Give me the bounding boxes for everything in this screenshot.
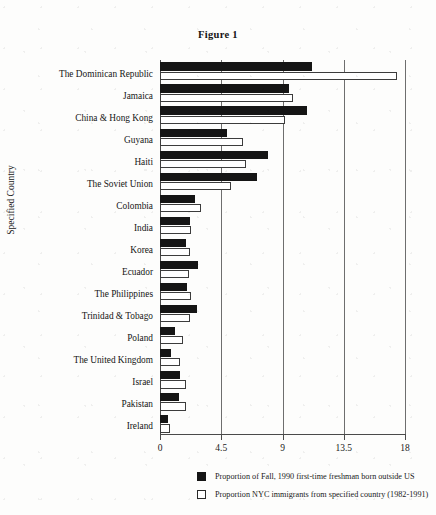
y-axis-category-label: Israel — [10, 377, 160, 387]
bar-freshman-proportion — [160, 393, 179, 401]
bar-freshman-proportion — [160, 217, 190, 225]
y-axis-category-label: The Dominican Republic — [10, 69, 160, 79]
bar-freshman-proportion — [160, 371, 180, 379]
bar-nyc-immigrant-proportion — [160, 72, 397, 80]
bar-nyc-immigrant-proportion — [160, 160, 246, 168]
x-axis-tick — [160, 435, 161, 440]
x-axis-tick-label: 4.5 — [215, 443, 227, 453]
bar-freshman-proportion — [160, 415, 168, 423]
bar-nyc-immigrant-proportion — [160, 94, 293, 102]
bar-nyc-immigrant-proportion — [160, 292, 191, 300]
bars-plot-area — [160, 60, 405, 435]
bar-freshman-proportion — [160, 129, 227, 137]
y-axis-category-label: The Philippines — [10, 289, 160, 299]
figure-title: Figure 1 — [0, 29, 436, 40]
bar-freshman-proportion — [160, 195, 195, 203]
y-axis-category-label: Pakistan — [10, 399, 160, 409]
y-axis-category-label: Korea — [10, 245, 160, 255]
y-axis-category-label: Haiti — [10, 157, 160, 167]
plot-wrapper: The Dominican RepublicJamaicaChina & Hon… — [0, 55, 436, 440]
y-axis-category-label: India — [10, 223, 160, 233]
legend-item-label: Proportion of Fall, 1990 first-time fres… — [215, 472, 414, 481]
y-axis-category-label: Trinidad & Tobago — [10, 311, 160, 321]
y-axis-category-label: Ecuador — [10, 267, 160, 277]
y-axis-category-label: Ireland — [10, 421, 160, 431]
y-axis-category-label: The United Kingdom — [10, 355, 160, 365]
gridline — [405, 60, 406, 434]
bar-nyc-immigrant-proportion — [160, 204, 201, 212]
x-axis-tick-label: 13.5 — [335, 443, 352, 453]
open-square-swatch-icon — [197, 490, 206, 499]
bar-freshman-proportion — [160, 305, 197, 313]
bar-freshman-proportion — [160, 151, 268, 159]
x-axis-tick — [344, 435, 345, 440]
x-axis-tick-label: 9 — [280, 443, 285, 453]
y-axis-category-label: Jamaica — [10, 91, 160, 101]
y-axis-category-label: Poland — [10, 333, 160, 343]
bar-freshman-proportion — [160, 84, 289, 92]
bar-nyc-immigrant-proportion — [160, 380, 186, 388]
bar-nyc-immigrant-proportion — [160, 314, 190, 322]
bar-nyc-immigrant-proportion — [160, 402, 186, 410]
bar-freshman-proportion — [160, 62, 312, 70]
bar-freshman-proportion — [160, 173, 257, 181]
bar-nyc-immigrant-proportion — [160, 248, 190, 256]
bar-freshman-proportion — [160, 327, 175, 335]
bar-nyc-immigrant-proportion — [160, 226, 191, 234]
bar-freshman-proportion — [160, 349, 171, 357]
bar-freshman-proportion — [160, 261, 198, 269]
y-axis-category-label: China & Hong Kong — [10, 113, 160, 123]
y-axis-category-label: Colombia — [10, 201, 160, 211]
x-axis-tick — [283, 435, 284, 440]
x-axis-tick-label: 0 — [158, 443, 163, 453]
bar-nyc-immigrant-proportion — [160, 358, 180, 366]
bar-nyc-immigrant-proportion — [160, 424, 170, 432]
legend-item-label: Proportion NYC immigrants from specified… — [215, 490, 428, 499]
legend-item: Proportion of Fall, 1990 first-time fres… — [197, 472, 436, 481]
x-axis-tick-label: 18 — [400, 443, 410, 453]
bar-freshman-proportion — [160, 106, 307, 114]
bar-nyc-immigrant-proportion — [160, 270, 189, 278]
x-axis-tick — [405, 435, 406, 440]
legend-item: Proportion NYC immigrants from specified… — [197, 490, 436, 499]
y-axis-category-label: The Soviet Union — [10, 179, 160, 189]
bar-freshman-proportion — [160, 239, 186, 247]
bar-nyc-immigrant-proportion — [160, 336, 183, 344]
bar-nyc-immigrant-proportion — [160, 116, 285, 124]
x-axis-tick — [221, 435, 222, 440]
bar-freshman-proportion — [160, 283, 187, 291]
bar-nyc-immigrant-proportion — [160, 182, 231, 190]
dark-square-swatch-icon — [197, 472, 206, 481]
figure-container: Figure 1 Specified Country The Dominican… — [0, 0, 436, 515]
y-axis-category-label: Guyana — [10, 135, 160, 145]
y-axis-category-labels: The Dominican RepublicJamaicaChina & Hon… — [0, 60, 160, 435]
bar-nyc-immigrant-proportion — [160, 138, 243, 146]
chart-legend: Proportion of Fall, 1990 first-time fres… — [197, 472, 436, 508]
